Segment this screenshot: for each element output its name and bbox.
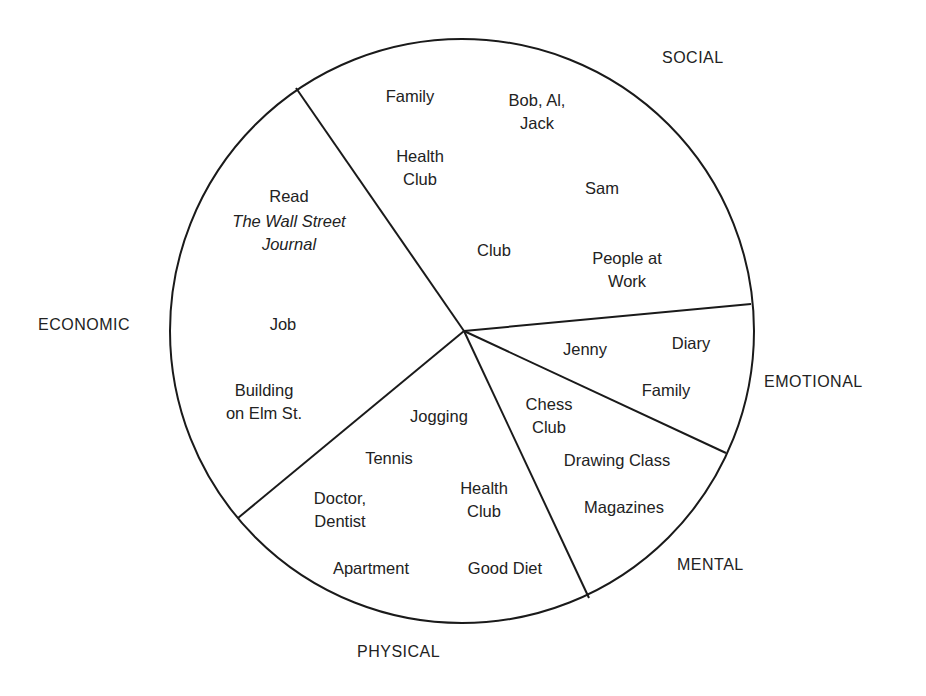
life-areas-circle-diagram: SOCIALECONOMICEMOTIONALMENTALPHYSICAL Fa… <box>0 0 926 696</box>
category-labels: SOCIALECONOMICEMOTIONALMENTALPHYSICAL <box>38 49 863 660</box>
sector-item-line: People at <box>592 249 662 267</box>
sector-item: Family <box>386 87 435 105</box>
sector-item-line: Health <box>396 147 444 165</box>
sector-item-line: Apartment <box>333 559 410 577</box>
sector-item-line: Good Diet <box>468 559 543 577</box>
sector-mental: ChessClubDrawing ClassMagazines <box>526 395 671 516</box>
sector-item: Club <box>477 241 511 259</box>
sector-item-line: Work <box>608 272 647 290</box>
sector-item: Apartment <box>333 559 410 577</box>
sector-item: Drawing Class <box>564 451 670 469</box>
category-label-social: SOCIAL <box>662 49 724 66</box>
sector-item-line: on Elm St. <box>226 404 302 422</box>
sector-item: Sam <box>585 179 619 197</box>
sector-item: People atWork <box>592 249 662 290</box>
sector-item-line: Club <box>403 170 437 188</box>
sector-item: Jenny <box>563 340 608 358</box>
sector-emotional: JennyDiaryFamily <box>563 334 711 399</box>
sector-item-line: Journal <box>261 235 317 253</box>
sector-item: Jogging <box>410 407 468 425</box>
sector-item: Diary <box>672 334 711 352</box>
sector-social: FamilyBob, Al,JackHealthClubSamClubPeopl… <box>386 87 663 290</box>
category-label-mental: MENTAL <box>677 556 744 573</box>
sector-item: Read <box>269 187 308 205</box>
sector-item: Family <box>642 381 691 399</box>
diagram-shapes <box>170 39 754 623</box>
sector-item-line: Tennis <box>365 449 413 467</box>
sector-item: The Wall StreetJournal <box>232 212 347 253</box>
sector-item-line: Jogging <box>410 407 468 425</box>
category-label-economic: ECONOMIC <box>38 316 130 333</box>
category-label-physical: PHYSICAL <box>357 643 440 660</box>
sector-item-line: Jenny <box>563 340 608 358</box>
sector-item-line: Club <box>477 241 511 259</box>
sector-item-line: Job <box>270 315 297 333</box>
sector-item: Tennis <box>365 449 413 467</box>
sector-item-line: Dentist <box>314 512 366 530</box>
sector-item-line: Jack <box>520 114 555 132</box>
sector-item: ChessClub <box>526 395 573 436</box>
social-economic-divider <box>296 88 464 331</box>
sector-item-line: Family <box>642 381 691 399</box>
sector-item: HealthClub <box>460 479 508 520</box>
sector-item: HealthClub <box>396 147 444 188</box>
sector-item-line: Club <box>467 502 501 520</box>
sector-item-line: Bob, Al, <box>509 91 566 109</box>
sector-item-line: Magazines <box>584 498 664 516</box>
sector-economic: ReadThe Wall StreetJournalJobBuildingon … <box>226 187 347 422</box>
social-emotional-divider <box>464 304 751 331</box>
sector-item: Buildingon Elm St. <box>226 381 302 422</box>
sector-item-line: Sam <box>585 179 619 197</box>
sector-item: Job <box>270 315 297 333</box>
sector-item-line: Building <box>235 381 294 399</box>
sector-item-line: Family <box>386 87 435 105</box>
sector-item-line: Diary <box>672 334 711 352</box>
sector-item-line: Read <box>269 187 308 205</box>
sector-item-line: Health <box>460 479 508 497</box>
outer-circle <box>170 39 754 623</box>
sector-item-line: Chess <box>526 395 573 413</box>
category-label-emotional: EMOTIONAL <box>764 373 863 390</box>
sector-item-line: Club <box>532 418 566 436</box>
sector-item: Magazines <box>584 498 664 516</box>
sector-item-line: Drawing Class <box>564 451 670 469</box>
sector-item: Bob, Al,Jack <box>509 91 566 132</box>
sector-physical: JoggingTennisDoctor,DentistHealthClubApa… <box>314 407 543 577</box>
sector-item-line: Doctor, <box>314 489 366 507</box>
sector-item: Good Diet <box>468 559 543 577</box>
sector-item: Doctor,Dentist <box>314 489 366 530</box>
sector-item-line: The Wall Street <box>232 212 347 230</box>
